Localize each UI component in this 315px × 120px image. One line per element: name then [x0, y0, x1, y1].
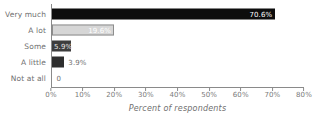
category-label: A lot [0, 26, 46, 35]
bar-row: Very much70.6% [0, 6, 315, 22]
x-axis-tick: 60% [233, 88, 249, 100]
bar-value-label: 0 [57, 74, 62, 82]
tick-label: 30% [138, 91, 154, 100]
tick-label: 70% [264, 91, 280, 100]
bar-chart: Very much70.6%A lot19.6%Some5.9%A little… [0, 0, 315, 120]
bar [52, 73, 53, 84]
bar-wrapper: 0 [52, 73, 53, 84]
tick-label: 80% [296, 91, 312, 100]
x-axis-tick: 10% [75, 88, 91, 100]
tick-label: 40% [170, 91, 186, 100]
tick-label: 20% [106, 91, 122, 100]
x-axis-tick: 0% [45, 88, 56, 100]
bar-row: A little3.9% [0, 54, 315, 70]
category-label: Very much [0, 10, 46, 19]
bar-wrapper: 70.6% [52, 9, 275, 20]
bar [52, 57, 64, 68]
x-axis-tick: 20% [106, 88, 122, 100]
tick-label: 10% [75, 91, 91, 100]
tick-label: 0% [45, 91, 56, 100]
bar-row: Not at all0 [0, 70, 315, 86]
category-label: Some [0, 42, 46, 51]
x-axis-tick: 50% [201, 88, 217, 100]
tick-label: 60% [233, 91, 249, 100]
category-label: Not at all [0, 74, 46, 83]
x-axis-tick: 30% [138, 88, 154, 100]
bar [52, 9, 275, 20]
x-axis-tick: 40% [170, 88, 186, 100]
tick-label: 50% [201, 91, 217, 100]
bar-value-label: 5.9% [54, 42, 72, 50]
bar-row: Some5.9% [0, 38, 315, 54]
category-label: A little [0, 58, 46, 67]
bar-wrapper: 3.9% [52, 57, 64, 68]
bar-value-label: 3.9% [68, 58, 86, 66]
bar-row: A lot19.6% [0, 22, 315, 38]
bar-value-label: 70.6% [250, 10, 273, 18]
bar-wrapper: 19.6% [52, 25, 114, 36]
x-axis-tick: 80% [296, 88, 312, 100]
bar-rows: Very much70.6%A lot19.6%Some5.9%A little… [0, 6, 315, 87]
bar-value-label: 19.6% [88, 26, 111, 34]
x-axis-title: Percent of respondents [51, 104, 304, 114]
bar-wrapper: 5.9% [52, 41, 71, 52]
x-axis-tick: 70% [264, 88, 280, 100]
